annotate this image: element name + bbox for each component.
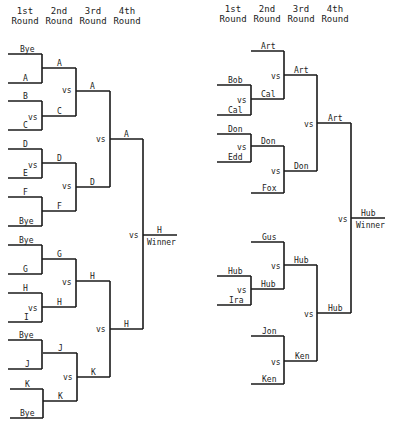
left-r2-entry: H [57, 298, 62, 307]
tournament-bracket-diagram: 1stRound 2ndRound 3rdRound 4thRound 1stR… [0, 0, 394, 428]
right-r2-entry: Hub [261, 280, 275, 289]
vs-label: vs [129, 231, 139, 240]
left-r1-entry: J [25, 360, 30, 369]
right-r1-entry: Edd [228, 153, 242, 162]
header-line: Round [42, 16, 76, 26]
left-r2-entry: F [57, 202, 62, 211]
header-left-round-2: 2ndRound [42, 6, 76, 26]
right-r3-entry: Ken [295, 352, 309, 361]
header-right-round-4: 4thRound [318, 4, 352, 24]
left-r1-entry: C [23, 121, 28, 130]
vs-label: vs [28, 113, 38, 122]
header-line: Round [8, 16, 42, 26]
right-r2-entry: Ken [262, 375, 276, 384]
header-line: Round [76, 16, 110, 26]
right-r3-entry: Hub [294, 256, 308, 265]
vs-label: vs [28, 161, 38, 170]
vs-label: vs [271, 358, 281, 367]
left-r1-entry: E [23, 169, 28, 178]
header-left-round-1: 1stRound [8, 6, 42, 26]
header-line: Round [216, 14, 250, 24]
vs-label: vs [63, 373, 73, 382]
left-winner-label: Winner [147, 238, 176, 247]
left-r2-entry: A [57, 59, 62, 68]
header-right-round-2: 2ndRound [250, 4, 284, 24]
left-winner-name: H [157, 226, 162, 235]
right-r4-entry: Hub [328, 304, 342, 313]
vs-label: vs [96, 325, 106, 334]
header-line: Round [110, 16, 144, 26]
right-r1-entry: Cal [228, 106, 242, 115]
vs-label: vs [338, 215, 348, 224]
left-r1-entry: B [23, 92, 28, 101]
left-r2-entry: D [57, 154, 62, 163]
left-r1-entry: Bye [19, 331, 33, 340]
left-r3-entry: K [91, 368, 96, 377]
left-r1-entry: Bye [19, 236, 33, 245]
header-line: 3rd [284, 4, 318, 14]
vs-label: vs [271, 167, 281, 176]
right-r2-entry: Don [261, 137, 275, 146]
right-r1-entry: Don [228, 125, 242, 134]
right-r2-entry: Jon [262, 327, 276, 336]
vs-label: vs [304, 120, 314, 129]
left-r3-entry: D [90, 178, 95, 187]
left-r1-entry: Bye [20, 409, 34, 418]
header-line: 3rd [76, 6, 110, 16]
left-r1-entry: H [23, 284, 28, 293]
left-r2-entry: C [57, 107, 62, 116]
left-r1-entry: I [24, 313, 29, 322]
left-r1-entry: Bye [19, 217, 33, 226]
vs-label: vs [271, 72, 281, 81]
left-r2-entry: K [58, 392, 63, 401]
header-left-round-3: 3rdRound [76, 6, 110, 26]
left-r2-entry: J [58, 344, 63, 353]
vs-label: vs [304, 310, 314, 319]
right-r2-entry: Gus [262, 233, 276, 242]
left-r1-entry: G [23, 265, 28, 274]
header-line: 1st [8, 6, 42, 16]
header-right-round-3: 3rdRound [284, 4, 318, 24]
header-line: 4th [318, 4, 352, 14]
vs-label: vs [62, 278, 72, 287]
right-r2-entry: Cal [261, 90, 275, 99]
left-r4-entry: H [124, 320, 129, 329]
vs-label: vs [28, 304, 38, 313]
vs-label: vs [237, 143, 247, 152]
right-winner-name: Hub [361, 209, 375, 218]
left-r1-entry: F [23, 188, 28, 197]
right-r2-entry: Art [261, 42, 275, 51]
left-r4-entry: A [124, 130, 129, 139]
vs-label: vs [237, 96, 247, 105]
left-r2-entry: G [57, 250, 62, 259]
header-line: 4th [110, 6, 144, 16]
left-r1-entry: A [23, 74, 28, 83]
vs-label: vs [96, 135, 106, 144]
header-line: Round [318, 14, 352, 24]
header-line: 2nd [42, 6, 76, 16]
right-winner-label: Winner [356, 221, 385, 230]
right-r1-entry: Bob [228, 76, 242, 85]
left-r3-entry: H [90, 272, 95, 281]
right-r3-entry: Don [294, 162, 308, 171]
header-line: 2nd [250, 4, 284, 14]
right-r4-entry: Art [328, 114, 342, 123]
vs-label: vs [271, 262, 281, 271]
right-r1-entry: Hub [228, 267, 242, 276]
vs-label: vs [237, 286, 247, 295]
right-r3-entry: Art [294, 66, 308, 75]
header-left-round-4: 4thRound [110, 6, 144, 26]
left-r1-entry: D [23, 140, 28, 149]
header-line: Round [250, 14, 284, 24]
vs-label: vs [62, 182, 72, 191]
left-r1-entry: Bye [20, 45, 34, 54]
left-r3-entry: A [90, 82, 95, 91]
header-line: 1st [216, 4, 250, 14]
right-r2-entry: Fox [262, 184, 276, 193]
vs-label: vs [62, 86, 72, 95]
header-right-round-1: 1stRound [216, 4, 250, 24]
header-line: Round [284, 14, 318, 24]
right-r1-entry: Ira [229, 296, 243, 305]
left-r1-entry: K [25, 380, 30, 389]
